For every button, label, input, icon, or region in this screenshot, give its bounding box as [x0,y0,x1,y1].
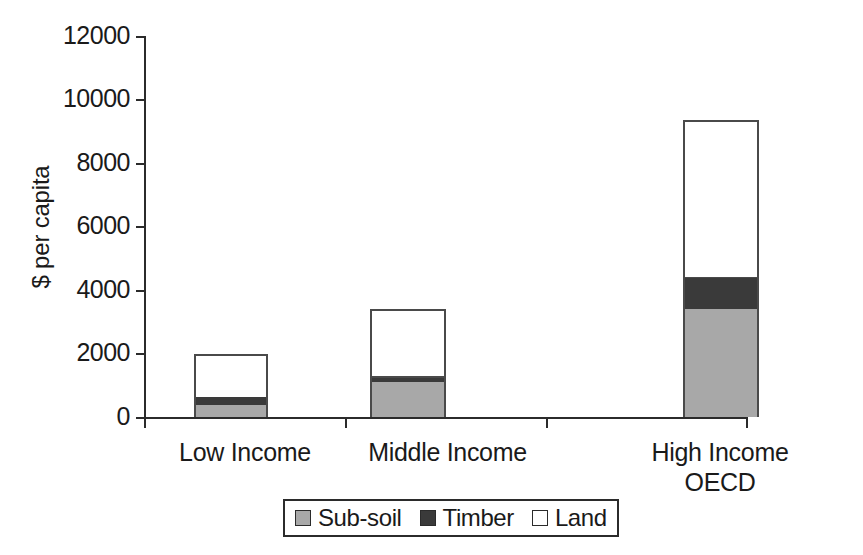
legend-item-timber: Timber [420,504,514,532]
bar-middle-income [370,309,446,417]
x-axis-line [144,417,748,419]
y-axis-tick-label-12000: 12000 [0,21,136,50]
y-axis-tick-label-6000: 6000 [0,211,136,240]
bar-segment-land-middle-income [370,309,446,378]
chart-legend: Sub-soil Timber Land [283,499,619,537]
legend-label-sub-soil: Sub-soil [318,504,402,532]
x-axis-tick-1 [345,418,347,428]
bar-segment-land-high-income-oecd [683,120,759,279]
y-axis-tick-label-2000: 2000 [0,338,136,367]
x-axis-tick-0 [144,418,146,428]
x-axis-category-label-high-income-oecd: High Income OECD [620,437,820,497]
legend-item-land: Land [532,504,607,532]
x-axis-category-label-low-income: Low Income [160,437,330,467]
legend-label-timber: Timber [443,504,514,532]
bar-segment-subsoil-low-income [194,405,268,417]
legend-label-land: Land [555,504,607,532]
y-axis-tick-6000 [136,226,145,228]
x-axis-tick-3 [746,418,748,428]
y-axis-tick-10000 [136,99,145,101]
bar-low-income [194,354,268,417]
stacked-bar-chart: $ per capita 12000 10000 8000 6000 4000 … [0,0,863,555]
y-axis-tick-8000 [136,163,145,165]
y-axis-tick-label-0: 0 [0,402,136,431]
x-axis-tick-2 [546,418,548,428]
legend-item-sub-soil: Sub-soil [295,504,402,532]
legend-swatch-timber [420,510,436,526]
legend-swatch-sub-soil [295,510,311,526]
bar-segment-subsoil-middle-income [370,382,446,417]
y-axis-tick-12000 [136,36,145,38]
y-axis-tick-label-8000: 8000 [0,148,136,177]
y-axis-tick-label-4000: 4000 [0,275,136,304]
y-axis-tick-4000 [136,290,145,292]
bar-segment-timber-low-income [194,397,268,405]
x-axis-category-label-middle-income: Middle Income [340,437,555,467]
y-axis-tick-label-10000: 10000 [0,84,136,113]
bar-segment-subsoil-high-income-oecd [683,309,759,417]
y-axis-tick-2000 [136,353,145,355]
bar-segment-timber-high-income-oecd [683,278,759,309]
bar-high-income-oecd [683,120,759,417]
legend-swatch-land [532,510,548,526]
